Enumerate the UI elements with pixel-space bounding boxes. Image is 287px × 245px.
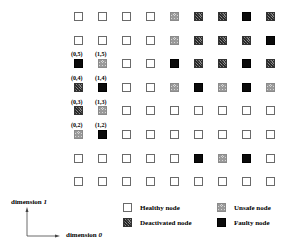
node-6-7-deactivated	[218, 12, 227, 21]
node-4-6-unsafe	[170, 36, 179, 45]
deactivated-node-swatch-icon	[123, 218, 132, 227]
node-2-1-healthy	[122, 154, 131, 163]
node-6-4-unsafe	[218, 83, 227, 92]
node-6-5-deactivated	[218, 59, 227, 68]
dimension-0-label: dimension 0	[66, 231, 102, 239]
node-4-2-healthy	[170, 130, 179, 139]
node-1-5-unsafe	[98, 59, 107, 68]
unsafe-node-swatch-icon	[217, 203, 226, 212]
healthy-node-swatch-icon	[123, 203, 132, 212]
node-3-6-healthy	[146, 36, 155, 45]
node-2-0-healthy	[122, 177, 131, 186]
node-3-7-healthy	[146, 12, 155, 21]
node-0-1-healthy	[74, 154, 83, 163]
node-7-2-healthy	[242, 130, 251, 139]
node-0-0-healthy	[74, 177, 83, 186]
legend-faulty: Faulty node	[217, 218, 270, 227]
node-5-2-healthy	[194, 130, 203, 139]
node-3-5-healthy	[146, 59, 155, 68]
node-3-1-healthy	[146, 154, 155, 163]
node-5-3-healthy	[194, 106, 203, 115]
coord-label-0-3: (0,3)	[71, 99, 83, 105]
node-4-3-healthy	[170, 106, 179, 115]
node-8-0-healthy	[266, 177, 275, 186]
coord-label-0-4: (0,4)	[71, 75, 83, 81]
node-0-6-healthy	[74, 36, 83, 45]
node-3-3-healthy	[146, 106, 155, 115]
node-8-7-deactivated	[266, 12, 275, 21]
node-2-2-healthy	[122, 130, 131, 139]
node-1-3-unsafe	[98, 106, 107, 115]
node-5-1-faulty	[194, 154, 203, 163]
node-0-4-deactivated	[74, 83, 83, 92]
node-7-0-healthy	[242, 177, 251, 186]
node-8-1-healthy	[266, 154, 275, 163]
node-6-3-healthy	[218, 106, 227, 115]
coord-label-0-2: (0,2)	[71, 122, 83, 128]
node-5-0-healthy	[194, 177, 203, 186]
node-8-4-unsafe	[266, 83, 275, 92]
node-3-0-healthy	[146, 177, 155, 186]
node-2-7-healthy	[122, 12, 131, 21]
node-7-5-faulty	[242, 59, 251, 68]
node-2-5-healthy	[122, 59, 131, 68]
node-0-3-deactivated	[74, 106, 83, 115]
node-4-7-unsafe	[170, 12, 179, 21]
legend-deactivated: Deactivated node	[123, 218, 192, 227]
faulty-node-swatch-icon	[217, 218, 226, 227]
node-7-6-deactivated	[242, 36, 251, 45]
node-7-7-faulty	[242, 12, 251, 21]
coord-label-1-4: (1,4)	[95, 75, 107, 81]
node-3-4-healthy	[146, 83, 155, 92]
node-8-5-deactivated	[266, 59, 275, 68]
node-6-1-unsafe	[218, 154, 227, 163]
node-1-7-healthy	[98, 12, 107, 21]
node-1-0-healthy	[98, 177, 107, 186]
coord-label-0-5: (0,5)	[71, 51, 83, 57]
node-8-3-healthy	[266, 106, 275, 115]
axis-arrows-icon	[0, 205, 80, 245]
coord-label-1-5: (1,5)	[95, 51, 107, 57]
node-3-2-healthy	[146, 130, 155, 139]
node-4-1-healthy	[170, 154, 179, 163]
node-0-5-faulty	[74, 59, 83, 68]
node-6-2-healthy	[218, 130, 227, 139]
node-8-6-faulty	[266, 36, 275, 45]
node-1-1-healthy	[98, 154, 107, 163]
node-6-0-healthy	[218, 177, 227, 186]
node-2-6-healthy	[122, 36, 131, 45]
legend-healthy: Healthy node	[123, 203, 180, 212]
node-5-6-deactivated	[194, 36, 203, 45]
node-0-7-healthy	[74, 12, 83, 21]
node-5-7-deactivated	[194, 12, 203, 21]
node-0-2-unsafe	[74, 130, 83, 139]
node-4-0-healthy	[170, 177, 179, 186]
node-7-3-healthy	[242, 106, 251, 115]
node-1-2-faulty	[98, 130, 107, 139]
coord-label-1-3: (1,3)	[95, 99, 107, 105]
node-7-1-faulty	[242, 154, 251, 163]
node-1-6-healthy	[98, 36, 107, 45]
node-2-3-healthy	[122, 106, 131, 115]
node-6-6-deactivated	[218, 36, 227, 45]
node-2-4-healthy	[122, 83, 131, 92]
node-4-5-faulty	[170, 59, 179, 68]
legend-unsafe: Unsafe node	[217, 203, 271, 212]
node-1-4-faulty	[98, 83, 107, 92]
node-7-4-faulty	[242, 83, 251, 92]
coord-label-1-2: (1,2)	[95, 122, 107, 128]
node-5-5-deactivated	[194, 59, 203, 68]
node-5-4-faulty	[194, 83, 203, 92]
node-8-2-healthy	[266, 130, 275, 139]
node-4-4-unsafe	[170, 83, 179, 92]
